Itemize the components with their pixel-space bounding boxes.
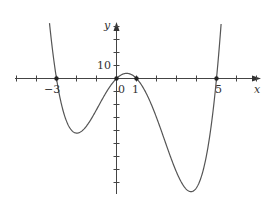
function-graph: −3 0 1 5 10 x y — [0, 0, 277, 206]
y-axis-label: y — [103, 19, 111, 32]
tick-label-0: 0 — [118, 83, 125, 96]
tick-label-1: 1 — [132, 83, 139, 96]
function-curve — [50, 23, 222, 192]
tick-label-y10: 10 — [97, 59, 111, 72]
x-axis-label: x — [254, 83, 261, 96]
tick-label-neg3: −3 — [44, 83, 60, 96]
tick-label-5: 5 — [215, 83, 222, 96]
